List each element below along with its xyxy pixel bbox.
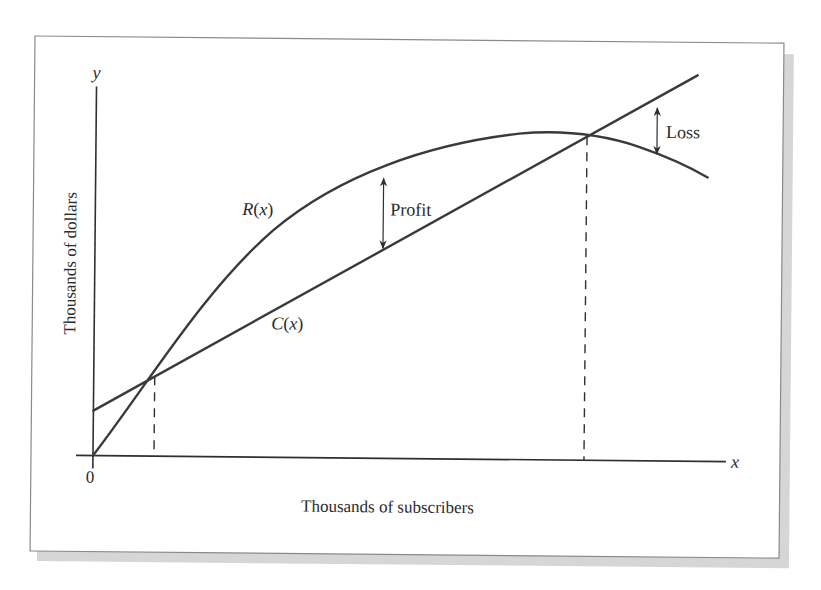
figure-frame — [30, 36, 784, 558]
profit-loss-diagram: y x 0 Thousands of subscribers Thousands… — [0, 0, 821, 590]
profit-label: Profit — [390, 199, 431, 219]
cost-curve-label: C(x) — [271, 313, 303, 334]
x-axis-label: Thousands of subscribers — [301, 497, 474, 518]
loss-label: Loss — [666, 122, 700, 142]
origin-label: 0 — [86, 468, 95, 487]
revenue-curve-label: R(x) — [241, 199, 273, 220]
x-axis-variable: x — [730, 452, 739, 472]
y-axis-variable: y — [91, 63, 101, 83]
profit-double-arrow — [383, 178, 384, 248]
y-axis-label: Thousands of dollars — [60, 192, 80, 335]
rotated-figure-group: y x 0 Thousands of subscribers Thousands… — [30, 36, 794, 568]
